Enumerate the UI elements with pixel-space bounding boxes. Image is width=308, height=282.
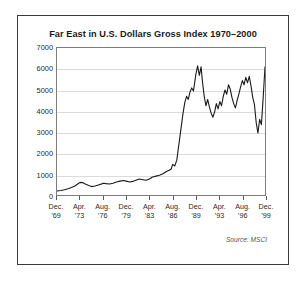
x-axis-tick bbox=[196, 196, 197, 200]
y-axis-tick-label: 0 bbox=[17, 192, 53, 201]
x-axis-tick bbox=[126, 196, 127, 200]
x-axis-tick bbox=[219, 196, 220, 200]
y-axis-tick-label: 2000 bbox=[17, 149, 53, 158]
x-axis-tick bbox=[149, 196, 150, 200]
x-label-month: Dec. bbox=[259, 202, 274, 211]
x-axis-labels: Dec.’69Apr.’73Aug.’76Dec.’79Apr.’83Aug.’… bbox=[56, 202, 266, 228]
x-axis-tick bbox=[173, 196, 174, 200]
series-line-far-east-index bbox=[57, 48, 265, 195]
x-axis-tick bbox=[266, 196, 267, 200]
chart-title: Far East in U.S. Dollars Gross Index 197… bbox=[17, 29, 289, 39]
x-axis-tick bbox=[243, 196, 244, 200]
y-axis-tick-label: 4000 bbox=[17, 106, 53, 115]
x-label-year: ’99 bbox=[246, 211, 286, 220]
data-line bbox=[57, 66, 265, 191]
x-axis-tick bbox=[103, 196, 104, 200]
x-axis-tick bbox=[56, 196, 57, 200]
plot-area bbox=[56, 47, 266, 196]
chart-figure: Far East in U.S. Dollars Gross Index 197… bbox=[0, 0, 308, 282]
x-axis-ticks bbox=[56, 196, 266, 201]
y-axis-tick-label: 5000 bbox=[17, 85, 53, 94]
y-axis-tick-label: 1000 bbox=[17, 170, 53, 179]
y-axis-tick-label: 3000 bbox=[17, 128, 53, 137]
x-axis-tick bbox=[79, 196, 80, 200]
x-axis-tick-label: Dec.’99 bbox=[246, 202, 286, 221]
source-note: Source: MSCI bbox=[17, 236, 267, 243]
y-axis-labels: 01000200030004000500060007000 bbox=[17, 47, 53, 196]
y-axis-tick-label: 6000 bbox=[17, 64, 53, 73]
y-axis-tick-label: 7000 bbox=[17, 43, 53, 52]
